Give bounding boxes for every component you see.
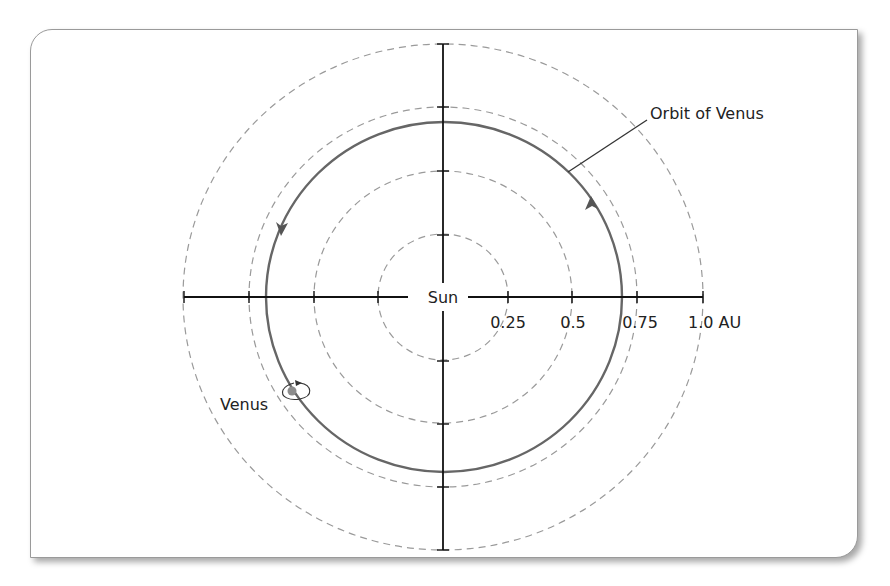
orbit-diagram: Sun 0.25 0.5 0.75 1.0 AU Orbit of Venus … <box>0 0 890 586</box>
rotation-arrowhead-icon <box>295 380 302 386</box>
orbit-leader-line <box>568 120 647 172</box>
orbit-label: Orbit of Venus <box>650 104 764 123</box>
venus-dot-icon <box>288 387 297 396</box>
tick-label: 1.0 AU <box>688 313 741 332</box>
tick-label: 0.75 <box>622 313 658 332</box>
venus-label: Venus <box>220 395 268 414</box>
tick-label: 0.5 <box>560 313 585 332</box>
arrowhead-icon <box>585 196 598 210</box>
tick-label: 0.25 <box>490 313 526 332</box>
sun-label: Sun <box>428 288 458 307</box>
venus-planet <box>282 380 309 400</box>
